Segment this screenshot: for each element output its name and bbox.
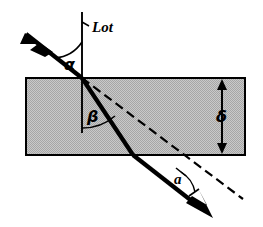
beta-angle-label: β — [86, 107, 98, 126]
exit-angle-arc — [181, 172, 195, 192]
alpha-angle-label: α — [64, 55, 76, 74]
exit-angle-label: a — [174, 171, 182, 187]
glass-slab — [26, 78, 245, 155]
refraction-figure: Lot α β δ a — [0, 0, 263, 227]
exit-ray-arrowhead — [186, 190, 213, 218]
normal-label: Lot — [91, 19, 114, 35]
lot-leader-line — [82, 22, 89, 26]
incident-ray-arrowhead — [20, 33, 53, 57]
refraction-diagram-canvas: Lot α β δ a — [0, 0, 263, 227]
offset-label: δ — [216, 107, 227, 126]
